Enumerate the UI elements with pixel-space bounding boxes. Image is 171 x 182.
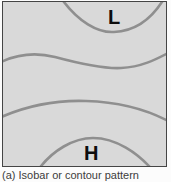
figure-caption: (a) Isobar or contour pattern	[2, 169, 171, 181]
low-pressure-label: L	[108, 7, 120, 27]
figure-panel: L H (a) Isobar or contour pattern	[0, 0, 171, 182]
isobar-curve-upper-middle-wave	[3, 52, 166, 68]
isobar-curve-lower-middle-arc	[3, 101, 166, 122]
isobar-map-panel: L H	[2, 1, 167, 167]
high-pressure-label: H	[84, 143, 98, 163]
